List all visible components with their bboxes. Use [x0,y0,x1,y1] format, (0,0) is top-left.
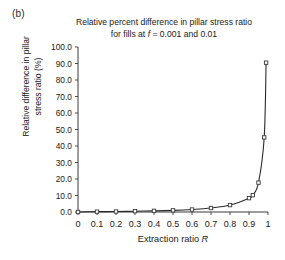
y-tick-label: 90.0 [56,59,73,69]
x-axis-label-prefix: Extraction ratio [138,234,202,244]
data-point-marker [133,209,136,212]
y-tick-label: 80.0 [56,75,73,85]
data-point-marker [263,136,266,139]
axis-frame [78,47,268,212]
data-point-marker [209,206,212,209]
data-point-marker [95,210,98,213]
x-tick-label: 0.6 [186,219,199,229]
x-axis-label: Extraction ratio R [78,234,268,244]
data-markers [76,61,267,214]
x-tick-label: 1 [265,219,270,229]
x-tick-label: 0.8 [224,219,237,229]
y-tick-label: 40.0 [56,141,73,151]
y-tick-label: 30.0 [56,158,73,168]
y-tick-label: 60.0 [56,108,73,118]
data-curve [78,63,266,212]
x-axis-label-symbol: R [202,234,209,244]
data-point-marker [251,193,254,196]
x-tick-label: 0.7 [205,219,218,229]
data-point-marker [114,210,117,213]
y-tick-label: 20.0 [56,174,73,184]
x-tick-label: 0.2 [110,219,123,229]
x-tick-label: 0.3 [129,219,142,229]
x-tick-label: 0.1 [91,219,104,229]
data-point-marker [247,196,250,199]
plot-area: 0.010.020.030.040.050.060.070.080.090.01… [0,0,285,260]
y-axis: 0.010.020.030.040.050.060.070.080.090.01… [51,42,78,217]
data-point-marker [264,61,267,64]
data-point-marker [257,181,260,184]
y-tick-label: 0.0 [60,207,72,217]
y-tick-label: 50.0 [56,125,73,135]
y-tick-label: 100.0 [51,42,72,52]
data-point-marker [76,210,79,213]
y-tick-label: 10.0 [56,191,73,201]
x-tick-label: 0.4 [148,219,161,229]
x-tick-label: 0 [75,219,80,229]
x-tick-label: 0.5 [167,219,180,229]
y-tick-label: 70.0 [56,92,73,102]
figure-panel: (b) Relative percent difference in pilla… [0,0,285,260]
data-point-marker [152,209,155,212]
data-point-marker [171,209,174,212]
data-point-marker [190,208,193,211]
x-tick-label: 0.9 [243,219,256,229]
data-point-marker [228,203,231,206]
x-axis: 00.10.20.30.40.50.60.70.80.91 [75,212,270,229]
